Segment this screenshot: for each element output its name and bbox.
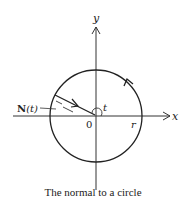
radius-label: r — [131, 119, 137, 130]
normal-to-circle-diagram: y x 0 r t N(t) — [0, 0, 186, 205]
x-axis-label: x — [172, 110, 179, 123]
label-leader-line — [40, 108, 56, 109]
normal-vector-symbol: N — [17, 103, 26, 114]
vector-dash-1 — [56, 101, 62, 104]
normal-vector-argument: (t) — [26, 103, 38, 114]
figure-caption: The normal to a circle — [0, 186, 186, 198]
origin-label: 0 — [86, 119, 92, 130]
y-axis-label: y — [92, 12, 100, 25]
normal-vector — [55, 95, 95, 115]
vector-dash-2 — [63, 107, 73, 112]
normal-vector-label: N(t) — [17, 103, 38, 114]
angle-label: t — [103, 102, 108, 113]
